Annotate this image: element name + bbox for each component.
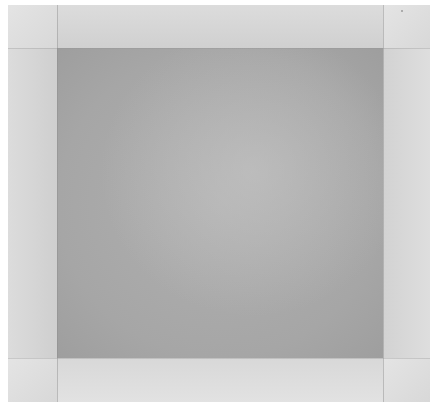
top-edge-panel (57, 5, 383, 48)
right-divider-line (383, 5, 384, 402)
bottom-right-corner-panel (383, 358, 430, 402)
bottom-edge-panel (57, 358, 383, 402)
left-divider-line (57, 5, 58, 402)
top-left-corner-panel (8, 5, 57, 48)
center-dark-square (57, 48, 383, 358)
bottom-left-corner-panel (8, 358, 57, 402)
artwork-canvas (8, 5, 430, 402)
top-right-corner-panel (383, 5, 430, 48)
left-edge-panel (8, 48, 57, 358)
right-edge-panel (383, 48, 430, 358)
bottom-divider-line (8, 358, 430, 359)
speck-mark (401, 10, 403, 12)
top-divider-line (8, 48, 430, 49)
